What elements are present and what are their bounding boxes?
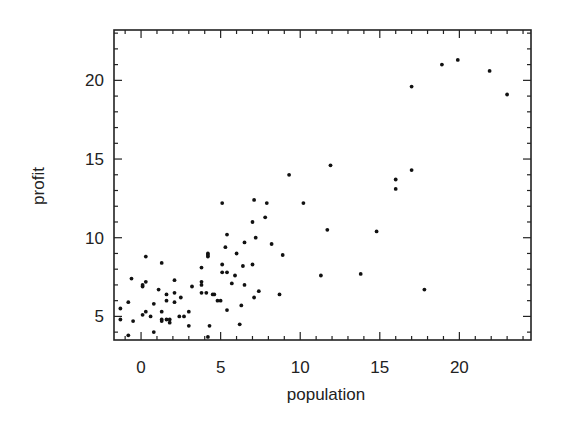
plot-frame	[114, 30, 531, 340]
data-point	[119, 307, 123, 311]
data-point	[173, 278, 177, 282]
data-point	[126, 333, 130, 337]
data-point	[287, 173, 291, 177]
data-point	[182, 315, 186, 319]
data-point	[251, 263, 255, 267]
scatter-chart: 05101520 5101520 population profit	[0, 0, 563, 426]
data-point	[375, 230, 379, 234]
data-point	[265, 201, 269, 205]
data-point	[394, 187, 398, 191]
data-point	[233, 274, 237, 278]
data-point	[160, 261, 164, 265]
data-point	[200, 291, 204, 295]
y-tick-label: 10	[85, 229, 104, 248]
data-point	[131, 319, 135, 323]
data-point	[168, 321, 172, 325]
data-point	[251, 220, 255, 224]
data-point	[263, 215, 267, 219]
data-point	[187, 310, 191, 314]
data-point	[225, 308, 229, 312]
data-point	[144, 280, 148, 284]
data-point	[141, 285, 145, 289]
data-point	[206, 335, 210, 339]
data-point	[206, 252, 210, 256]
x-tick-label: 20	[450, 358, 469, 377]
data-point	[329, 163, 333, 167]
data-point	[200, 266, 204, 270]
data-point	[144, 255, 148, 259]
data-point	[119, 318, 123, 322]
data-point	[160, 319, 164, 323]
data-point	[410, 85, 414, 89]
x-axis-title: population	[287, 385, 365, 404]
data-point	[179, 296, 183, 300]
data-point	[165, 299, 169, 303]
data-point	[394, 178, 398, 182]
data-point	[423, 288, 427, 292]
y-axis-title: profit	[29, 167, 48, 205]
data-point	[278, 293, 282, 297]
data-point	[257, 289, 261, 293]
x-tick-label: 15	[370, 358, 389, 377]
data-point	[144, 310, 148, 314]
data-point	[230, 282, 234, 286]
data-point	[224, 245, 228, 249]
data-point	[165, 293, 169, 297]
data-point	[252, 198, 256, 202]
data-point	[241, 264, 245, 268]
data-point	[212, 293, 216, 297]
y-tick-label: 20	[85, 71, 104, 90]
data-point	[220, 201, 224, 205]
data-point	[440, 63, 444, 67]
x-tick-labels: 05101520	[136, 358, 469, 377]
data-point	[177, 315, 181, 319]
data-point	[302, 201, 306, 205]
data-point	[190, 285, 194, 289]
data-point	[456, 58, 460, 62]
data-point	[238, 322, 242, 326]
y-tick-label: 5	[95, 307, 104, 326]
data-point	[200, 283, 204, 287]
data-point	[219, 299, 223, 303]
data-point	[204, 291, 208, 295]
x-tick-label: 0	[136, 358, 145, 377]
y-tick-label: 15	[85, 150, 104, 169]
data-point	[173, 291, 177, 295]
data-point	[359, 272, 363, 276]
data-point	[243, 241, 247, 245]
x-tick-label: 5	[216, 358, 225, 377]
data-point	[252, 296, 256, 300]
data-point	[173, 300, 177, 304]
data-point	[160, 310, 164, 314]
axis-ticks	[114, 30, 531, 340]
data-point	[325, 228, 329, 232]
data-point	[319, 274, 323, 278]
data-point	[225, 233, 229, 237]
data-point	[254, 236, 258, 240]
data-point	[488, 69, 492, 73]
data-point	[410, 168, 414, 172]
data-point	[130, 277, 134, 281]
data-point	[235, 252, 239, 256]
y-tick-labels: 5101520	[85, 71, 104, 326]
data-point	[220, 263, 224, 267]
data-point	[505, 93, 509, 97]
data-point	[157, 288, 161, 292]
data-points	[119, 58, 510, 339]
data-point	[239, 304, 243, 308]
data-point	[270, 242, 274, 246]
data-point	[208, 324, 212, 328]
data-point	[220, 270, 224, 274]
data-point	[149, 315, 153, 319]
data-point	[152, 302, 156, 306]
x-tick-label: 10	[291, 358, 310, 377]
data-point	[152, 330, 156, 334]
data-point	[187, 324, 191, 328]
data-point	[126, 300, 130, 304]
data-point	[243, 283, 247, 287]
data-point	[141, 313, 145, 317]
data-point	[281, 253, 285, 257]
data-point	[225, 270, 229, 274]
